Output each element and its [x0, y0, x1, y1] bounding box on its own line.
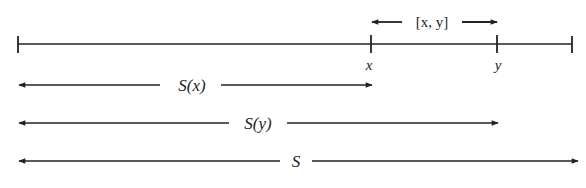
- arrow-s-of-x: S(x): [19, 76, 372, 95]
- s-of-x-label: S(x): [178, 76, 206, 95]
- interval-arrow: [x, y]: [372, 14, 497, 30]
- y-point-label: y: [493, 57, 502, 73]
- interval-diagram: x y [x, y] S(x) S(y) S: [0, 0, 586, 188]
- main-segment: x y: [18, 35, 572, 73]
- s-label: S: [292, 152, 301, 171]
- x-point-label: x: [365, 57, 373, 73]
- s-of-y-label: S(y): [244, 114, 272, 133]
- arrow-s-of-y: S(y): [19, 114, 498, 133]
- interval-label: [x, y]: [416, 14, 449, 30]
- arrow-s: S: [19, 152, 578, 171]
